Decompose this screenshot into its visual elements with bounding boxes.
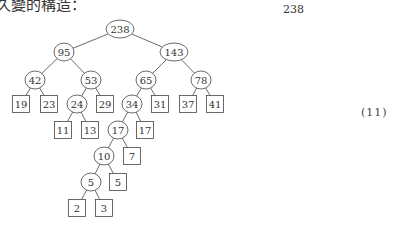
node-label: 42 — [29, 75, 42, 86]
leaf-node: 17 — [137, 122, 154, 139]
tree-edge — [95, 190, 100, 199]
node-label: 10 — [98, 151, 111, 162]
node-label: 53 — [85, 75, 98, 86]
internal-node: 95 — [54, 43, 74, 61]
tree-edge — [181, 60, 194, 74]
tree-edge — [122, 138, 127, 147]
node-label: 2 — [74, 203, 80, 214]
tree-edge — [96, 88, 100, 96]
tree-edge — [108, 138, 113, 148]
internal-node: 24 — [67, 95, 87, 113]
node-label: 34 — [126, 99, 139, 110]
tree-edge — [137, 88, 142, 96]
node-label: 31 — [154, 99, 167, 110]
leaf-node: 31 — [152, 96, 169, 113]
node-label: 37 — [182, 99, 195, 110]
tree-edge — [42, 59, 57, 74]
tree-edge — [71, 59, 85, 73]
internal-node: 34 — [122, 95, 142, 113]
tree-edge — [68, 112, 73, 121]
tree-nodes: 2389514342536578243417105192329313741111… — [13, 20, 224, 217]
internal-node: 17 — [108, 121, 128, 139]
tree-edge — [73, 34, 108, 48]
internal-node: 238 — [106, 20, 134, 38]
node-label: 238 — [110, 24, 129, 35]
internal-node: 78 — [191, 71, 211, 89]
tree-edge — [95, 164, 100, 174]
leaf-node: 29 — [97, 96, 114, 113]
internal-node: 5 — [81, 173, 101, 191]
node-label: 17 — [139, 125, 152, 136]
leaf-node: 2 — [69, 200, 86, 217]
internal-node: 42 — [25, 71, 45, 89]
node-label: 11 — [57, 125, 70, 136]
tree-edge — [82, 88, 87, 96]
internal-node: 65 — [136, 71, 156, 89]
leaf-node: 23 — [41, 96, 58, 113]
node-label: 78 — [195, 75, 208, 86]
leaf-node: 7 — [124, 148, 141, 165]
node-label: 5 — [88, 177, 94, 188]
tree-edge — [108, 164, 113, 173]
node-label: 5 — [115, 177, 121, 188]
leaf-node: 11 — [55, 122, 72, 139]
tree-edge — [136, 112, 141, 121]
huffman-tree-diagram: 2389514342536578243417105192329313741111… — [0, 0, 397, 226]
tree-edge — [206, 88, 210, 96]
tree-edge — [193, 88, 197, 95]
internal-node: 53 — [81, 71, 101, 89]
node-label: 65 — [140, 75, 153, 86]
leaf-node: 5 — [110, 174, 127, 191]
node-label: 24 — [71, 99, 84, 110]
node-label: 19 — [15, 99, 28, 110]
node-label: 3 — [101, 203, 107, 214]
leaf-node: 19 — [13, 96, 30, 113]
internal-node: 10 — [94, 147, 114, 165]
node-label: 7 — [129, 151, 135, 162]
leaf-node: 41 — [207, 96, 224, 113]
node-label: 17 — [112, 125, 125, 136]
node-label: 41 — [209, 99, 222, 110]
leaf-node: 37 — [180, 96, 197, 113]
node-label: 143 — [164, 47, 183, 58]
tree-edge — [132, 34, 163, 47]
leaf-node: 13 — [82, 122, 99, 139]
leaf-node: 3 — [96, 200, 113, 217]
tree-edge — [122, 112, 127, 122]
tree-edge — [153, 60, 167, 74]
node-label: 29 — [99, 99, 112, 110]
node-label: 13 — [84, 125, 97, 136]
tree-edge — [82, 190, 87, 199]
internal-node: 143 — [160, 43, 188, 61]
node-label: 23 — [43, 99, 56, 110]
node-label: 95 — [58, 47, 71, 58]
tree-edge — [81, 112, 86, 121]
tree-edge — [26, 88, 30, 96]
tree-edge — [151, 88, 155, 96]
tree-edge — [40, 88, 44, 96]
